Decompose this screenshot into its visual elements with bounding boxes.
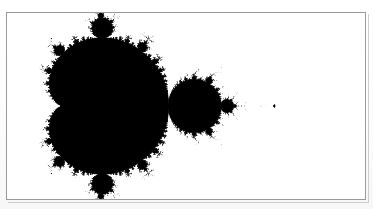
mandelbrot-figure-frame [6,12,366,200]
mandelbrot-canvas [7,13,365,199]
figure-page [0,0,373,209]
